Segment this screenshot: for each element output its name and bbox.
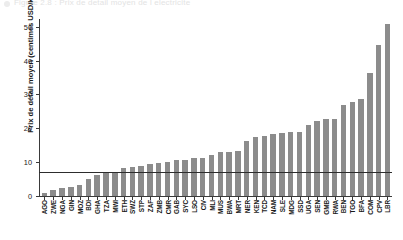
- bar-cell: [198, 20, 207, 196]
- bar-cell: [383, 20, 392, 196]
- x-tick-label-MOZ: MOZ: [76, 200, 83, 214]
- x-label-cell: MLI: [207, 200, 216, 240]
- x-label-cell: NGA: [58, 200, 67, 240]
- bar-cell: [242, 20, 251, 196]
- figure-container: Figure 2.8 : Prix de detail moyen de l e…: [0, 0, 403, 240]
- x-label-cell: SEN: [313, 200, 322, 240]
- bar-TGO: [350, 102, 355, 196]
- bar-GIN: [68, 187, 73, 196]
- bar-cell: [365, 20, 374, 196]
- x-label-cell: NAM: [269, 200, 278, 240]
- x-label-cell: TCD: [260, 200, 269, 240]
- bar-cell: [40, 20, 49, 196]
- x-label-cell: BWA: [225, 200, 234, 240]
- x-label-cell: CPV: [374, 200, 383, 240]
- x-tick-label-TCD: TCD: [261, 200, 268, 213]
- bar-STP: [138, 166, 143, 196]
- x-label-cell: NER: [242, 200, 251, 240]
- y-tick-label: 10: [8, 158, 32, 167]
- bar-COM: [367, 73, 372, 196]
- x-tick-label-TGO: TGO: [349, 200, 356, 214]
- bar-MWI: [112, 172, 117, 196]
- x-label-cell: CMR: [163, 200, 172, 240]
- x-tick-label-MRT: MRT: [234, 200, 241, 214]
- x-label-cell: TZA: [102, 200, 111, 240]
- bar-RWA: [332, 119, 337, 196]
- bar-cell: [84, 20, 93, 196]
- bar-GHA: [94, 175, 99, 196]
- x-label-cell: BDI: [84, 200, 93, 240]
- bar-NER: [244, 141, 249, 196]
- bar-cell: [295, 20, 304, 196]
- bar-cell: [102, 20, 111, 196]
- bar-ZAF: [147, 164, 152, 196]
- x-tick-label-SWZ: SWZ: [129, 200, 136, 214]
- x-tick-label-GAB: GAB: [173, 200, 180, 214]
- x-label-cell: TGO: [348, 200, 357, 240]
- x-tick-label-MUS: MUS: [217, 200, 224, 214]
- x-tick-label-COM: COM: [366, 200, 373, 215]
- x-tick-label-ZMB: ZMB: [155, 200, 162, 214]
- x-tick-label-SSD: SSD: [296, 200, 303, 213]
- bar-cell: [269, 20, 278, 196]
- bar-cell: [49, 20, 58, 196]
- bar-cell: [225, 20, 234, 196]
- x-label-cell: GMB: [322, 200, 331, 240]
- bar-NAM: [270, 134, 275, 196]
- x-tick-label-BDI: BDI: [85, 200, 92, 211]
- bar-LBR: [385, 24, 390, 196]
- x-label-cell: RWA: [330, 200, 339, 240]
- x-tick-label-CIV: CIV: [199, 200, 206, 210]
- bar-GMB: [323, 119, 328, 196]
- bar-cell: [172, 20, 181, 196]
- x-label-cell: GIN: [66, 200, 75, 240]
- bar-cell: [322, 20, 331, 196]
- bar-cell: [234, 20, 243, 196]
- y-tick-label: 40: [8, 57, 32, 66]
- x-label-cell: ZWE: [49, 200, 58, 240]
- x-label-cell: STP: [137, 200, 146, 240]
- x-label-cell: SWZ: [128, 200, 137, 240]
- x-tick-label-MLI: MLI: [208, 200, 215, 211]
- bar-cell: [181, 20, 190, 196]
- bar-MOZ: [77, 185, 82, 196]
- x-label-cell: MOZ: [75, 200, 84, 240]
- x-label-cell: CIV: [198, 200, 207, 240]
- bar-MUS: [218, 152, 223, 196]
- bar-cell: [207, 20, 216, 196]
- x-label-cell: ZAF: [146, 200, 155, 240]
- bar-cell: [260, 20, 269, 196]
- bar-cell: [58, 20, 67, 196]
- bar-SLE: [279, 133, 284, 196]
- bar-ZMB: [156, 163, 161, 196]
- bar-cell: [146, 20, 155, 196]
- x-tick-label-LSO: LSO: [190, 200, 197, 213]
- x-label-cell: GHA: [93, 200, 102, 240]
- bar-MLI: [209, 155, 214, 196]
- title-bullet-icon: [4, 1, 10, 7]
- x-label-cell: UGA: [304, 200, 313, 240]
- bar-cell: [374, 20, 383, 196]
- x-tick-label-KEN: KEN: [252, 200, 259, 213]
- x-tick-label-BEN: BEN: [340, 200, 347, 213]
- bar-cell: [163, 20, 172, 196]
- bar-cell: [278, 20, 287, 196]
- x-tick-label-MDG: MDG: [287, 200, 294, 215]
- bar-cell: [304, 20, 313, 196]
- x-label-cell: ETH: [119, 200, 128, 240]
- x-tick-label-NAM: NAM: [270, 200, 277, 214]
- bar-NGA: [59, 188, 64, 196]
- x-tick-label-GHA: GHA: [94, 200, 101, 214]
- bar-BFA: [358, 99, 363, 196]
- bar-cell: [330, 20, 339, 196]
- bar-cell: [339, 20, 348, 196]
- x-tick-label-UGA: UGA: [305, 200, 312, 214]
- x-tick-label-CMR: CMR: [164, 200, 171, 214]
- x-label-cell: LBR: [383, 200, 392, 240]
- x-tick-label-ETH: ETH: [120, 200, 127, 212]
- bar-cell: [110, 20, 119, 196]
- bar-BEN: [341, 105, 346, 196]
- x-tick-label-MWI: MWI: [111, 200, 118, 213]
- x-tick-label-GMB: GMB: [322, 200, 329, 215]
- bar-cell: [357, 20, 366, 196]
